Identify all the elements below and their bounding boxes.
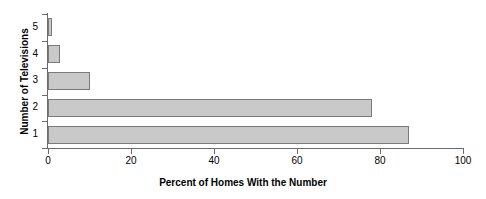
x-axis-title: Percent of Homes With the Number xyxy=(0,177,486,188)
y-tick-label-4: 4 xyxy=(14,48,38,59)
x-tick-label-40: 40 xyxy=(194,155,234,166)
x-tick-mark xyxy=(463,149,464,154)
x-tick-mark xyxy=(380,149,381,154)
x-axis-line xyxy=(47,148,464,149)
x-tick-label-0: 0 xyxy=(28,155,68,166)
bar-5 xyxy=(48,18,52,36)
bar-4 xyxy=(48,45,60,63)
bar-2 xyxy=(48,99,372,117)
y-tick-label-5-wrap: 5 xyxy=(14,21,38,33)
x-tick-label-60: 60 xyxy=(277,155,317,166)
x-tick-mark xyxy=(297,149,298,154)
x-tick-label-80: 80 xyxy=(360,155,400,166)
x-tick-label-100: 100 xyxy=(443,155,483,166)
y-tick-label-2: 2 xyxy=(14,101,38,112)
x-tick-label-20: 20 xyxy=(111,155,151,166)
y-tick-label-2-wrap: 2 xyxy=(14,101,38,113)
y-tick-label-5: 5 xyxy=(14,21,38,32)
x-tick-mark xyxy=(48,149,49,154)
x-tick-mark xyxy=(214,149,215,154)
y-tick-label-1-wrap: 1 xyxy=(14,128,38,140)
bar-3 xyxy=(48,72,90,90)
y-tick-label-3-wrap: 3 xyxy=(14,74,38,86)
bar-1 xyxy=(48,126,409,144)
x-tick-mark xyxy=(131,149,132,154)
bar-chart: Number of Televisions 5 4 3 2 1 02040608… xyxy=(0,0,486,199)
y-tick-label-1: 1 xyxy=(14,128,38,139)
y-tick-label-4-wrap: 4 xyxy=(14,48,38,60)
plot-area xyxy=(48,14,463,148)
y-tick-label-3: 3 xyxy=(14,74,38,85)
